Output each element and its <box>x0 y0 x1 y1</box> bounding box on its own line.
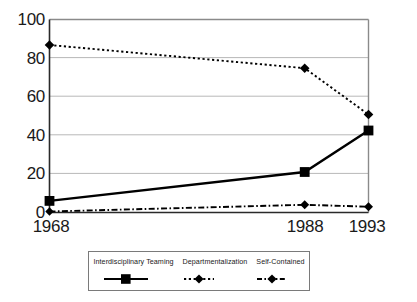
dashdot-diamond-key-icon <box>241 272 303 286</box>
dotted-diamond-key-icon <box>168 272 230 286</box>
solid-square-key-icon <box>95 272 157 286</box>
legend-labels: Interdisciplinary Teaming Departmentaliz… <box>89 257 309 266</box>
legend-label-self-contained: Self-Contained <box>256 257 304 266</box>
x-tick-1968: 1968 <box>33 218 70 235</box>
legend-label-departmentalization: Departmentalization <box>183 257 248 266</box>
legend-key-interdisciplinary-teaming <box>95 272 157 286</box>
x-tick-1988: 1988 <box>287 218 324 235</box>
legend-key-departmentalization <box>168 272 230 286</box>
x-tick-1993: 1993 <box>349 218 386 235</box>
legend-label-interdisciplinary-teaming: Interdisciplinary Teaming <box>93 257 173 266</box>
line-chart: 100 80 60 40 20 0 1968 1988 1993 Interdi… <box>0 0 417 302</box>
legend-key-self-contained <box>241 272 303 286</box>
legend-keys <box>89 272 309 286</box>
chart-legend: Interdisciplinary Teaming Departmentaliz… <box>88 251 310 291</box>
